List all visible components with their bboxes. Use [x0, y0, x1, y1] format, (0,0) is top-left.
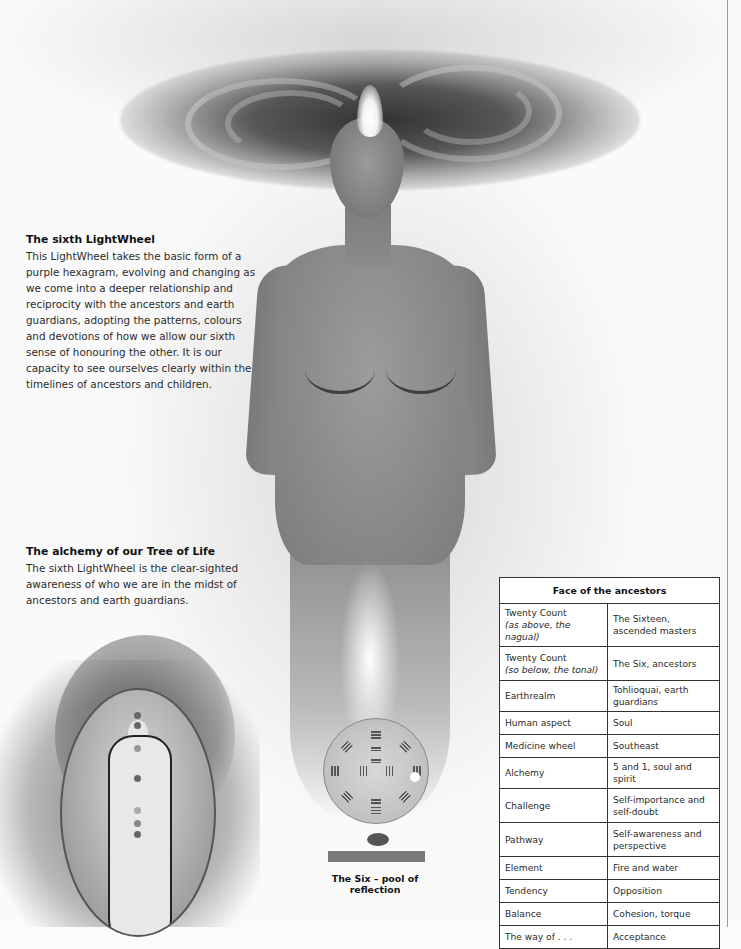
table-row: The way of . . . Acceptance [500, 926, 720, 949]
tree-of-life-image [0, 630, 290, 927]
chakra-dot-icon [134, 820, 141, 827]
row-label-sub: (as above, the nagual) [505, 619, 602, 643]
tree-of-life-section: The alchemy of our Tree of Life The sixt… [26, 544, 256, 608]
marker-dot-icon [410, 772, 420, 782]
row-value: The Six, ancestors [608, 647, 720, 681]
section-heading: The sixth LightWheel [26, 232, 258, 248]
trigram-icon [359, 766, 367, 776]
row-label: Twenty Count(so below, the tonal) [500, 647, 608, 681]
table-row: Balance Cohesion, torque [500, 903, 720, 926]
figure-contour [386, 345, 456, 394]
face-of-ancestors-table: Face of the ancestors Twenty Count(as ab… [499, 577, 720, 949]
table-row: Earthrealm Tohlioquai, earth guardians [500, 681, 720, 712]
row-value: Cohesion, torque [608, 903, 720, 926]
row-value: Tohlioquai, earth guardians [608, 681, 720, 712]
table-title: Face of the ancestors [500, 578, 720, 604]
trigram-icon [399, 741, 412, 754]
row-label: Medicine wheel [500, 735, 608, 758]
chakra-dot-icon [134, 807, 141, 814]
row-label: Challenge [500, 789, 608, 823]
hexagram-wheel-diagram [323, 718, 429, 824]
trigram-icon [371, 747, 381, 751]
section-body: The sixth LightWheel is the clear-sighte… [26, 560, 256, 608]
row-value: Soul [608, 712, 720, 735]
page-edge-rule [727, 0, 728, 927]
table-row: Alchemy 5 and 1, soul and spirit [500, 758, 720, 789]
row-value: 5 and 1, soul and spirit [608, 758, 720, 789]
trigram-icon [371, 731, 381, 739]
row-value: Opposition [608, 880, 720, 903]
row-label: Balance [500, 903, 608, 926]
row-label: Tendency [500, 880, 608, 903]
trigram-icon [341, 741, 354, 754]
row-label: Twenty Count(as above, the nagual) [500, 604, 608, 647]
row-label: Pathway [500, 823, 608, 857]
trigram-icon [341, 791, 354, 804]
table-row: Twenty Count(so below, the tonal) The Si… [500, 647, 720, 681]
table-row: Element Fire and water [500, 857, 720, 880]
row-label: The way of . . . [500, 926, 608, 949]
chakra-dot-icon [134, 722, 141, 729]
table-row: Tendency Opposition [500, 880, 720, 903]
section-heading: The alchemy of our Tree of Life [26, 544, 256, 560]
row-label-sub: (so below, the tonal) [505, 664, 602, 676]
pool-oval [367, 833, 389, 846]
row-label: Earthrealm [500, 681, 608, 712]
pool-caption: The Six – pool of reflection [310, 873, 440, 895]
row-value: Acceptance [608, 926, 720, 949]
trigram-icon [371, 799, 381, 804]
row-label: Alchemy [500, 758, 608, 789]
chakra-dot-icon [134, 745, 141, 752]
pool-bar [328, 851, 425, 862]
row-value: Self-awareness and perspective [608, 823, 720, 857]
row-value: The Sixteen, ascended masters [608, 604, 720, 647]
row-value: Self-importance and self-doubt [608, 789, 720, 823]
row-label: Element [500, 857, 608, 880]
section-body: This LightWheel takes the basic form of … [26, 248, 258, 392]
row-value: Fire and water [608, 857, 720, 880]
table-row: Twenty Count(as above, the nagual) The S… [500, 604, 720, 647]
trigram-icon [371, 759, 381, 764]
row-label-text: Twenty Count [505, 653, 567, 663]
row-value: Southeast [608, 735, 720, 758]
chakra-dot-icon [134, 831, 141, 838]
trigram-icon [331, 766, 339, 776]
table-row: Human aspect Soul [500, 712, 720, 735]
figure-contour [305, 345, 375, 394]
trigram-icon [371, 807, 381, 815]
trigram-icon [385, 766, 393, 776]
luminous-egg [60, 688, 216, 937]
row-label-text: Twenty Count [505, 608, 567, 618]
chakra-dot-icon [134, 712, 141, 719]
chakra-dot-icon [134, 775, 141, 782]
table-row: Medicine wheel Southeast [500, 735, 720, 758]
halo-swirl [410, 78, 532, 145]
row-label: Human aspect [500, 712, 608, 735]
trigram-icon [399, 791, 412, 804]
sixth-lightwheel-section: The sixth LightWheel This LightWheel tak… [26, 232, 258, 392]
table-row: Challenge Self-importance and self-doubt [500, 789, 720, 823]
table-row: Pathway Self-awareness and perspective [500, 823, 720, 857]
figure-torso [275, 245, 465, 565]
